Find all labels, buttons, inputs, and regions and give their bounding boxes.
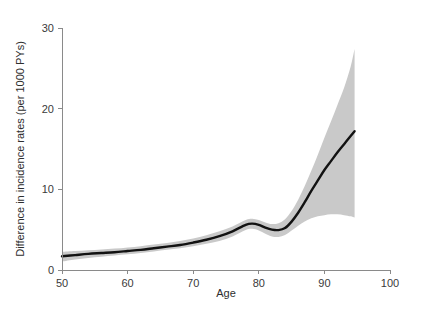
x-tick-label: 60 [121,277,133,289]
x-axis-title: Age [216,287,236,299]
y-axis-title: Difference in incidence rates (per 1000 … [14,41,26,257]
y-tick-label: 30 [42,22,54,34]
y-tick-label: 10 [42,183,54,195]
y-tick-label: 20 [42,103,54,115]
x-tick-label: 70 [187,277,199,289]
figure-container: 0102030 Difference in incidence rates (p… [0,0,421,319]
y-tick-label: 0 [48,264,54,276]
x-tick-label: 80 [253,277,265,289]
incidence-rate-difference-chart: 0102030 Difference in incidence rates (p… [0,0,421,319]
x-tick-label: 50 [56,277,68,289]
x-tick-label: 90 [318,277,330,289]
x-tick-label: 100 [381,277,399,289]
